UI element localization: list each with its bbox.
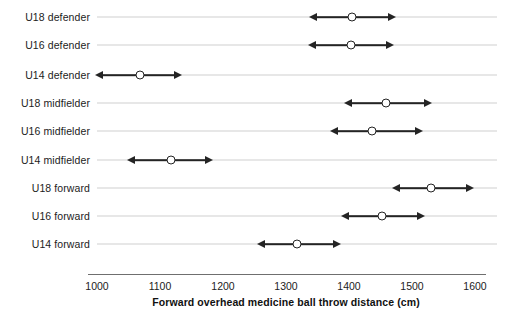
data-point-u18-midfielder xyxy=(382,99,391,108)
data-point-u14-defender xyxy=(135,71,144,80)
category-label-u16-defender: U16 defender xyxy=(25,39,97,51)
data-point-u14-midfielder xyxy=(166,156,175,165)
data-point-u18-defender xyxy=(348,13,357,22)
row-gridline-u18-defender xyxy=(97,17,497,18)
arrow-right-icon xyxy=(205,156,213,164)
arrow-left-icon xyxy=(341,212,349,220)
x-tick-label-1100: 1100 xyxy=(149,280,172,292)
category-label-u18-forward: U18 forward xyxy=(32,182,97,194)
row-gridline-u16-defender xyxy=(97,45,497,46)
arrow-right-icon xyxy=(466,184,474,192)
arrow-right-icon xyxy=(417,212,425,220)
arrow-right-icon xyxy=(388,13,396,21)
category-label-u14-forward: U14 forward xyxy=(32,238,97,250)
arrow-right-icon xyxy=(415,127,423,135)
arrow-left-icon xyxy=(257,240,265,248)
data-point-u16-midfielder xyxy=(367,127,376,136)
arrow-right-icon xyxy=(386,41,394,49)
data-point-u18-forward xyxy=(426,184,435,193)
category-label-u18-midfielder: U18 midfielder xyxy=(21,97,97,109)
category-label-u16-midfielder: U16 midfielder xyxy=(21,125,97,137)
range-bar-u16-midfielder xyxy=(330,124,423,138)
x-axis-line xyxy=(88,274,486,275)
arrow-right-icon xyxy=(424,99,432,107)
category-label-u14-midfielder: U14 midfielder xyxy=(21,154,97,166)
x-tick-label-1300: 1300 xyxy=(274,280,297,292)
row-gridline-u16-midfielder xyxy=(97,131,497,132)
arrow-right-icon xyxy=(333,240,341,248)
arrow-left-icon xyxy=(330,127,338,135)
category-label-u14-defender: U14 defender xyxy=(25,69,97,81)
arrow-left-icon xyxy=(95,71,103,79)
x-tick-label-1600: 1600 xyxy=(463,280,486,292)
x-axis-title: Forward overhead medicine ball throw dis… xyxy=(152,296,420,308)
range-shaft xyxy=(336,130,417,132)
data-point-u16-forward xyxy=(377,212,386,221)
category-label-u16-forward: U16 forward xyxy=(32,210,97,222)
arrow-right-icon xyxy=(174,71,182,79)
data-point-u16-defender xyxy=(346,41,355,50)
arrow-left-icon xyxy=(309,13,317,21)
arrow-left-icon xyxy=(392,184,400,192)
category-label-u18-defender: U18 defender xyxy=(25,11,97,23)
arrow-left-icon xyxy=(308,41,316,49)
x-tick-label-1200: 1200 xyxy=(211,280,234,292)
data-point-u14-forward xyxy=(292,240,301,249)
x-tick-label-1000: 1000 xyxy=(85,280,108,292)
arrow-left-icon xyxy=(127,156,135,164)
row-gridline-u18-midfielder xyxy=(97,103,497,104)
arrow-left-icon xyxy=(344,99,352,107)
chart-canvas: U18 defenderU16 defenderU14 defenderU18 … xyxy=(0,0,505,322)
x-tick-label-1500: 1500 xyxy=(400,280,423,292)
row-gridline-u16-forward xyxy=(97,216,497,217)
x-tick-label-1400: 1400 xyxy=(337,280,360,292)
